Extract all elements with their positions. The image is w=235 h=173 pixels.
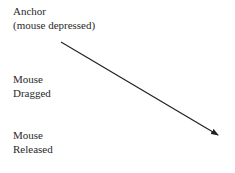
drag-diagram: Anchor (mouse depressed) Mouse Dragged M…: [0, 0, 235, 173]
drag-arrow-icon: [0, 0, 235, 173]
